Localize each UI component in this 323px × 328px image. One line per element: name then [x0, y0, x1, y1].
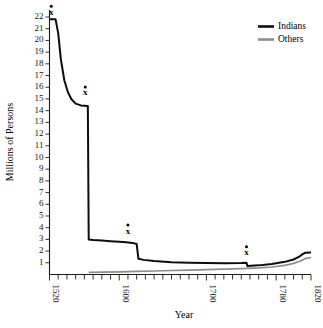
- y-tick-label: 10: [35, 152, 45, 162]
- annotation-x-icon: x: [126, 226, 131, 236]
- population-decline-line-chart: 12345678910111213141516171819202122 1520…: [0, 0, 323, 328]
- y-tick-label: 6: [39, 198, 44, 208]
- y-tick-label: 18: [35, 58, 45, 68]
- x-tick-label: 1600: [121, 285, 131, 304]
- chart-figure: 12345678910111213141516171819202122 1520…: [0, 0, 323, 328]
- y-tick-label: 20: [35, 34, 45, 44]
- x-axis-label-group: 15201600170017801820: [51, 285, 323, 304]
- y-tick-label: 9: [39, 163, 44, 173]
- y-tick-label: 1: [39, 257, 44, 267]
- annotation-x-icon: x: [49, 7, 54, 17]
- legend-label-others: Others: [278, 34, 304, 44]
- y-tick-label: 7: [39, 187, 44, 197]
- annotation-x-icon: x: [244, 247, 249, 257]
- y-tick-label: 2: [39, 245, 44, 255]
- annotation-marker-group: xxxx: [49, 5, 249, 258]
- y-tick-label: 22: [35, 11, 44, 21]
- y-tick-label: 11: [35, 140, 44, 150]
- y-tick-label: 16: [35, 81, 45, 91]
- y-tick-label: 12: [35, 128, 44, 138]
- y-tick-label: 15: [35, 93, 45, 103]
- y-tick-label: 5: [39, 210, 44, 220]
- legend: Indians Others: [258, 21, 306, 44]
- y-tick-label: 21: [35, 23, 44, 33]
- y-tick-label: 17: [35, 70, 45, 80]
- y-tick-label: 19: [35, 46, 45, 56]
- y-tick-label: 14: [35, 105, 45, 115]
- series-line-indians: [50, 19, 312, 266]
- x-axis-tick-group: [50, 275, 312, 281]
- x-tick-label: 1700: [208, 285, 218, 304]
- x-tick-label: 1520: [51, 285, 61, 304]
- y-tick-label: 4: [39, 222, 44, 232]
- y-axis-tick-group: 12345678910111213141516171819202122: [35, 11, 50, 267]
- y-tick-label: 8: [39, 175, 44, 185]
- y-axis-title: Millions of Persons: [4, 103, 15, 181]
- series-line-others: [89, 258, 311, 273]
- y-tick-label: 13: [35, 116, 45, 126]
- annotation-x-icon: x: [83, 87, 88, 97]
- legend-label-indians: Indians: [278, 21, 306, 31]
- x-axis-title: Year: [175, 309, 194, 320]
- x-tick-label: 1820: [313, 285, 323, 304]
- y-tick-label: 3: [39, 233, 44, 243]
- x-tick-label: 1780: [278, 285, 288, 304]
